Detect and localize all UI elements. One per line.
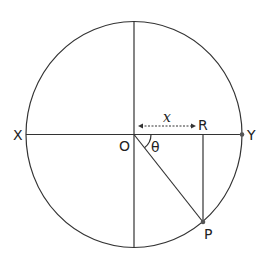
label-theta: θ <box>151 139 160 155</box>
label-Y: Y <box>246 127 256 143</box>
label-x: x <box>163 109 171 125</box>
circle-diagram: X Y O R P θ x <box>0 0 269 258</box>
point-P <box>201 220 206 225</box>
radius-OP <box>134 135 203 223</box>
point-Y <box>240 132 245 137</box>
label-O: O <box>119 138 130 154</box>
label-P: P <box>204 226 212 242</box>
label-X: X <box>13 127 23 143</box>
label-R: R <box>198 117 208 133</box>
